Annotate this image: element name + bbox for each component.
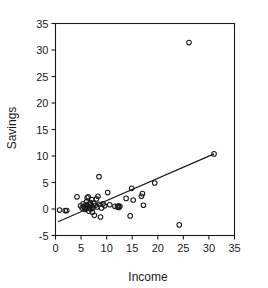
data-point [124, 196, 129, 201]
plot-svg: 05101520253035 -505101520253035 Income S… [0, 0, 268, 288]
data-point [105, 190, 110, 195]
data-point [141, 203, 146, 208]
data-point [131, 198, 136, 203]
regression-line [58, 154, 214, 222]
y-tick-label: 0 [42, 203, 48, 215]
y-axis-tick-labels: -505101520253035 [36, 18, 48, 242]
scatter-plot-figure: 05101520253035 -505101520253035 Income S… [0, 0, 268, 288]
y-tick-label: 25 [36, 71, 48, 83]
x-tick-label: 5 [78, 242, 84, 254]
y-axis-ticks [52, 24, 56, 236]
x-axis-ticks [56, 236, 235, 240]
data-point [98, 215, 103, 220]
x-tick-label: 35 [228, 242, 240, 254]
x-tick-label: 15 [126, 242, 138, 254]
y-tick-label: 5 [42, 177, 48, 189]
y-tick-label: 35 [36, 18, 48, 30]
y-tick-label: 20 [36, 97, 48, 109]
x-tick-label: 30 [203, 242, 215, 254]
data-point [57, 208, 62, 213]
x-tick-label: 20 [152, 242, 164, 254]
data-point [152, 181, 157, 186]
x-axis-title: Income [128, 270, 168, 284]
data-point [107, 202, 112, 207]
fit-line [58, 154, 214, 222]
data-point [75, 195, 80, 200]
data-point [128, 214, 133, 219]
data-point [97, 174, 102, 179]
data-point [177, 223, 182, 228]
y-tick-label: 10 [36, 150, 48, 162]
y-tick-label: 15 [36, 124, 48, 136]
y-tick-label: -5 [39, 230, 49, 242]
data-points [57, 40, 216, 227]
x-tick-label: 0 [52, 242, 58, 254]
x-axis-tick-labels: 05101520253035 [52, 242, 240, 254]
data-point [187, 40, 192, 45]
y-tick-label: 30 [36, 44, 48, 56]
y-axis-title: Savings [5, 107, 19, 150]
x-tick-label: 10 [101, 242, 113, 254]
x-tick-label: 25 [177, 242, 189, 254]
